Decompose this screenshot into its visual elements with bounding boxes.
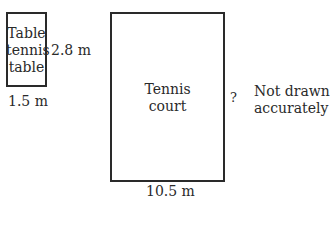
label-line: tennis <box>6 42 47 59</box>
note-line: Not drawn <box>254 83 326 100</box>
tennis-court-width-label: 10.5 m <box>146 183 195 199</box>
label-line: Tennis <box>110 81 225 98</box>
table-tennis-height-label: 2.8 m <box>51 42 91 58</box>
label-line: Table <box>6 25 47 42</box>
tennis-court-label: Tennis court <box>110 81 225 115</box>
not-drawn-accurately-note: Not drawn accurately <box>254 83 326 117</box>
label-line: table <box>6 59 47 76</box>
table-tennis-width-label: 1.5 m <box>8 93 48 109</box>
label-line: court <box>110 98 225 115</box>
note-line: accurately <box>254 100 326 117</box>
tennis-court-height-label: ? <box>230 90 237 106</box>
table-tennis-label: Table tennis table <box>6 25 47 76</box>
